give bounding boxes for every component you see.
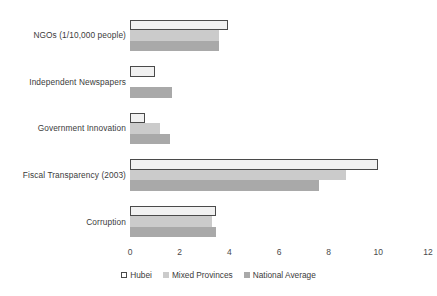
bar-group <box>130 20 428 52</box>
legend-swatch-icon <box>121 272 127 278</box>
plot-area <box>130 12 428 245</box>
x-tick-label: 6 <box>277 248 282 257</box>
bar-group <box>130 159 428 191</box>
legend-entry[interactable]: National Average <box>244 271 316 279</box>
bar-hubei <box>130 20 228 31</box>
legend-entry[interactable]: Hubei <box>121 271 152 279</box>
bar-national <box>130 134 170 145</box>
bar-chart: NGOs (1/10,000 people)Independent Newspa… <box>0 0 437 296</box>
x-tick-label: 2 <box>177 248 182 257</box>
x-tick-label: 4 <box>227 248 232 257</box>
bar-hubei <box>130 66 155 77</box>
bar-hubei <box>130 159 378 170</box>
bar-national <box>130 87 172 98</box>
x-tick-label: 10 <box>374 248 383 257</box>
bar-group <box>130 66 428 98</box>
category-label: Government Innovation <box>0 124 126 132</box>
bar-group <box>130 113 428 145</box>
x-tick-label: 8 <box>326 248 331 257</box>
bar-hubei <box>130 206 216 217</box>
legend-swatch-icon <box>163 272 169 278</box>
legend-label: Mixed Provinces <box>172 271 233 279</box>
chart-legend: HubeiMixed ProvincesNational Average <box>0 268 437 282</box>
bar-group <box>130 206 428 238</box>
category-label-column: NGOs (1/10,000 people)Independent Newspa… <box>0 12 126 245</box>
legend-label: National Average <box>253 271 316 279</box>
bar-mixed <box>130 216 212 227</box>
bar-mixed <box>130 123 160 134</box>
bar-mixed <box>130 170 346 181</box>
x-tick-label: 12 <box>423 248 432 257</box>
category-label: Independent Newspapers <box>0 78 126 86</box>
category-label: Fiscal Transparency (2003) <box>0 171 126 179</box>
category-label: NGOs (1/10,000 people) <box>0 31 126 39</box>
legend-swatch-icon <box>244 272 250 278</box>
bar-national <box>130 180 319 191</box>
x-axis: 024681012 <box>0 248 437 262</box>
legend-entry[interactable]: Mixed Provinces <box>163 271 233 279</box>
legend-label: Hubei <box>130 271 152 279</box>
bar-hubei <box>130 113 145 124</box>
bar-national <box>130 227 216 238</box>
bar-national <box>130 41 219 52</box>
bar-mixed <box>130 30 219 41</box>
x-tick-label: 0 <box>128 248 133 257</box>
category-label: Corruption <box>0 218 126 226</box>
